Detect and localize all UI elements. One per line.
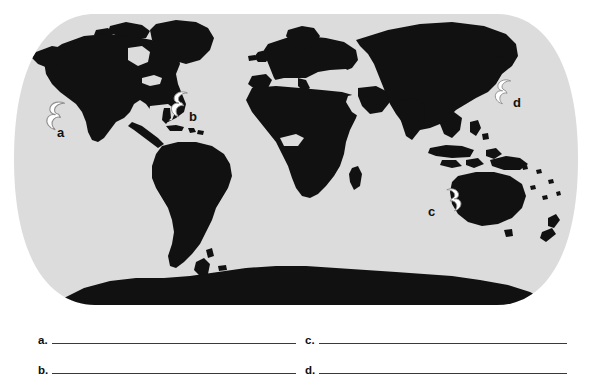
cyclone-label-c: c: [428, 205, 435, 218]
subantarctic-islands: [218, 265, 227, 271]
answer-row-c[interactable]: c.: [305, 332, 567, 346]
answer-tag-c: c.: [305, 335, 315, 346]
answer-row-d[interactable]: d.: [305, 362, 567, 376]
worksheet-page: a b c d a. b.: [0, 0, 592, 382]
answer-rule-a[interactable]: [52, 343, 296, 344]
answer-rule-b[interactable]: [52, 373, 296, 374]
cyclone-label-a: a: [57, 126, 64, 139]
answer-lines-section: a. b. c. d.: [0, 318, 592, 382]
cyclone-label-d: d: [513, 96, 521, 109]
cyclone-label-b: b: [189, 110, 197, 123]
answer-tag-a: a.: [38, 335, 48, 346]
answer-rule-c[interactable]: [319, 343, 567, 344]
world-map-svg: [0, 0, 592, 318]
answer-row-a[interactable]: a.: [38, 332, 296, 346]
answer-tag-b: b.: [38, 365, 48, 376]
answer-rule-d[interactable]: [319, 373, 567, 374]
world-map: a b c d: [0, 0, 592, 318]
answer-row-b[interactable]: b.: [38, 362, 296, 376]
answer-tag-d: d.: [305, 365, 315, 376]
hurricane-icon-c[interactable]: [440, 185, 464, 215]
